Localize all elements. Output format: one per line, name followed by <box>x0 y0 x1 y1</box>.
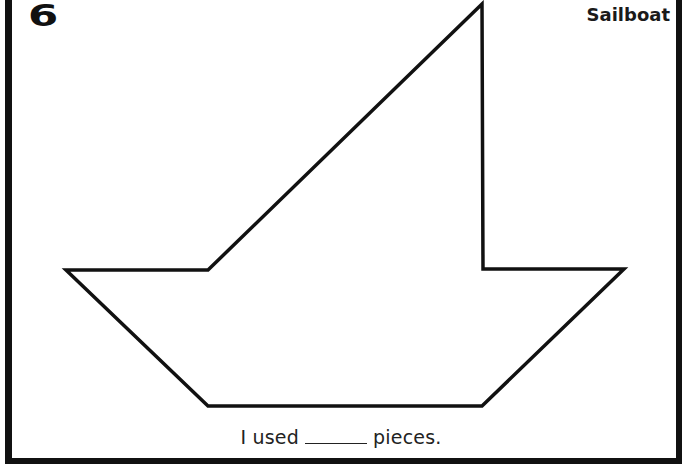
sailboat-outline <box>66 4 624 406</box>
sailboat-shape-canvas <box>0 0 682 464</box>
pieces-used-caption: I usedpieces. <box>0 425 682 449</box>
caption-prefix: I used <box>240 426 299 448</box>
pieces-count-blank[interactable] <box>305 425 367 444</box>
caption-suffix: pieces. <box>373 426 442 448</box>
